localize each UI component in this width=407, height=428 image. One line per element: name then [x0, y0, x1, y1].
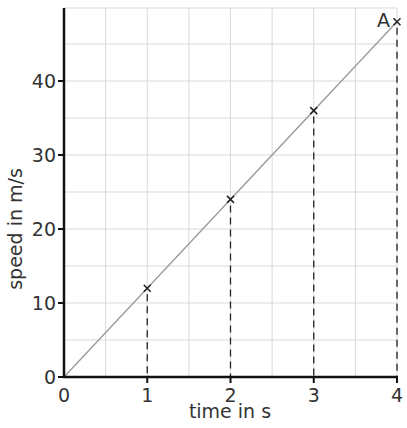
grid [64, 8, 397, 377]
x-tick-label: 4 [391, 384, 403, 406]
y-tick-label: 30 [32, 144, 56, 166]
y-tick-label: 10 [32, 292, 56, 314]
x-tick-label: 0 [58, 384, 70, 406]
y-tick-label: 0 [44, 366, 56, 388]
x-tick-label: 3 [308, 384, 320, 406]
y-tick-label: 40 [32, 70, 56, 92]
x-axis-label: time in s [189, 400, 271, 422]
y-tick-label: 20 [32, 218, 56, 240]
speed-time-chart: 01234 010203040 time in s speed in m/s A [0, 0, 407, 428]
annotations: A [377, 9, 390, 31]
point-label-a: A [377, 9, 390, 31]
x-tick-label: 1 [141, 384, 153, 406]
y-axis-label: speed in m/s [4, 168, 26, 290]
y-axis-ticks: 010203040 [32, 70, 64, 388]
